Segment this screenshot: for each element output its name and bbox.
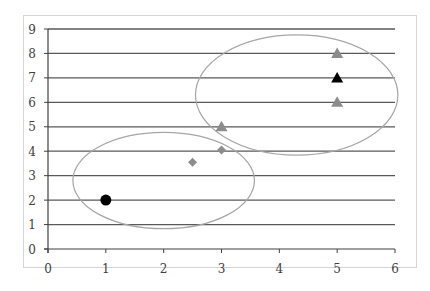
x-tick-label: 0: [44, 262, 52, 276]
y-tick-label: 1: [28, 218, 36, 232]
x-tick-label: 3: [218, 262, 226, 276]
triangle-marker: [216, 121, 228, 131]
y-tick-label: 3: [28, 169, 36, 183]
y-tick-label: 7: [28, 71, 36, 85]
y-tick-label: 8: [28, 47, 36, 61]
y-tick-label: 6: [28, 96, 36, 110]
y-tick-label: 9: [28, 23, 36, 37]
x-tick-label: 6: [391, 262, 399, 276]
triangle-marker: [331, 96, 343, 107]
x-tick-label: 2: [160, 262, 168, 276]
x-tick-label: 1: [102, 262, 110, 276]
y-tick-label: 4: [28, 145, 36, 159]
cluster-ellipse-lower-cluster: [73, 132, 255, 228]
y-tick-label: 2: [28, 194, 36, 208]
x-tick-label: 5: [333, 262, 341, 276]
circle-marker: [100, 195, 111, 206]
diamond-marker: [217, 146, 226, 155]
diamond-marker: [188, 158, 197, 167]
x-tick-label: 4: [276, 262, 284, 276]
triangle-marker: [331, 47, 343, 58]
y-tick-label: 5: [28, 120, 36, 134]
scatter-plot: 01234567890123456: [0, 0, 430, 291]
y-tick-label: 0: [28, 243, 36, 257]
triangle-marker: [331, 72, 343, 83]
